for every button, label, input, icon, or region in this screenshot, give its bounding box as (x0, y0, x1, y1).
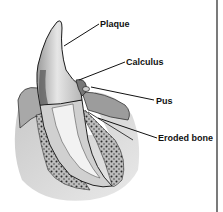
label-plaque: Plaque (100, 19, 130, 29)
label-pus: Pus (156, 96, 173, 106)
tooth-illustration (0, 0, 223, 212)
label-eroded-bone: Eroded bone (158, 133, 213, 143)
label-calculus: Calculus (126, 57, 164, 67)
leader-plaque (64, 24, 99, 46)
diagram-canvas: Plaque Calculus Pus Eroded bone (0, 0, 223, 212)
leader-calculus (79, 62, 125, 80)
pus-pocket (83, 87, 90, 92)
